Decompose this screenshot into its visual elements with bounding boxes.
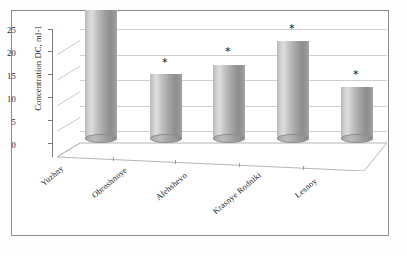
y-tick-label-5: 5 xyxy=(0,117,16,127)
x-label-yuzhny: Yuzhny xyxy=(39,164,65,188)
x-axis-tick-3 xyxy=(239,163,240,167)
gridline-25 xyxy=(80,29,387,30)
bar-body xyxy=(85,10,117,139)
x-axis-tick-1 xyxy=(113,157,114,161)
y-tick-label-0: 0 xyxy=(0,140,16,150)
bar-bottom-cap xyxy=(277,134,309,143)
bar-bottom-cap xyxy=(150,134,182,143)
y-tick-label-25: 25 xyxy=(0,25,16,35)
y-axis-line xyxy=(52,29,53,157)
y-axis-tick-25 xyxy=(48,29,53,30)
y-tick-label-20: 20 xyxy=(0,48,16,58)
significance-asterisk-alehshevo: * xyxy=(225,46,231,57)
y-axis-title: Concentration DC, ml-1 xyxy=(33,0,43,138)
chart-frame: Concentration DC, ml-1 25 20 15 10 5 0 xyxy=(11,10,389,236)
bar-krasnye-rodniki[interactable] xyxy=(277,41,309,143)
y-axis-tick-0 xyxy=(48,143,53,144)
significance-asterisk-obroshnoye: * xyxy=(162,57,168,68)
y-tick-label-15: 15 xyxy=(0,71,16,81)
gridline-20 xyxy=(80,55,387,56)
x-axis-tick-4 xyxy=(303,166,304,170)
chart-screenshot: Concentration DC, ml-1 25 20 15 10 5 0 xyxy=(0,0,407,256)
bar-bottom-cap xyxy=(341,134,373,143)
bar-obroshnoye[interactable] xyxy=(150,74,182,143)
significance-asterisk-krasnye-rodniki: * xyxy=(289,23,295,34)
bar-body xyxy=(213,65,245,139)
y-axis-tick-10 xyxy=(48,97,53,98)
x-axis-tick-2 xyxy=(175,160,176,164)
bar-body xyxy=(341,87,373,139)
x-label-alehshevo: Alehshevo xyxy=(154,171,189,202)
bar-yuzhny[interactable] xyxy=(85,10,117,143)
bar-bottom-cap xyxy=(85,134,117,143)
plot-area: * * * * xyxy=(57,29,387,171)
y-axis-tick-15 xyxy=(48,74,53,75)
significance-asterisk-lesnoy: * xyxy=(353,69,359,80)
bar-body xyxy=(150,74,182,139)
bar-body xyxy=(277,41,309,139)
x-label-lesnoy: Lesnoy xyxy=(293,176,319,200)
x-label-krasnye-rodniki: Krasnye Rodniki xyxy=(211,171,263,216)
bar-lesnoy[interactable] xyxy=(341,87,373,143)
y-axis-tick-20 xyxy=(48,51,53,52)
bar-bottom-cap xyxy=(213,134,245,143)
y-axis-tick-5 xyxy=(48,120,53,121)
y-tick-label-10: 10 xyxy=(0,94,16,104)
bar-alehshevo[interactable] xyxy=(213,65,245,143)
